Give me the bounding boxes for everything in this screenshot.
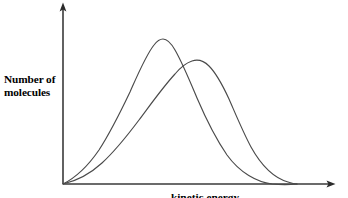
y-axis-label-line-1: Number of bbox=[4, 73, 62, 86]
y-axis-label: Number of molecules bbox=[4, 73, 62, 98]
x-axis-label: kinetic energy bbox=[120, 191, 290, 198]
figure-root: Number of molecules kinetic energy bbox=[0, 0, 348, 198]
distribution-curve-higher-temperature bbox=[63, 60, 297, 184]
y-axis-label-line-2: molecules bbox=[4, 86, 62, 99]
plot-area bbox=[0, 0, 348, 198]
